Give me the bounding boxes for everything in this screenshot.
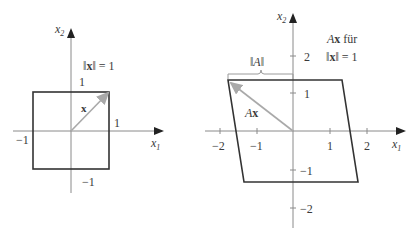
left-tick-top: 1: [79, 75, 85, 89]
vector-x-arrow: [71, 93, 108, 131]
left-panel-unit-square: x2 x1 ‖x‖ = 1 1 1 −1 −1 x: [13, 22, 162, 193]
right-y-tick-label: −2: [300, 202, 313, 216]
left-norm-label: ‖x‖ = 1: [83, 59, 115, 73]
right-y-tick-label: 1: [304, 87, 310, 101]
right-y-axis-label: x2: [276, 9, 286, 25]
right-x-tick-label: 1: [327, 139, 333, 153]
right-y-tick-label: 2: [304, 50, 310, 64]
left-x-axis-label: x1: [150, 136, 160, 152]
left-tick-right: 1: [114, 116, 120, 130]
vector-Ax-arrow: [231, 83, 293, 131]
right-caption-line1: Ax für: [326, 32, 357, 46]
right-x-tick-label: −2: [212, 139, 225, 153]
left-y-axis-label: x2: [54, 22, 64, 38]
brace-norm-label: ‖A‖: [250, 55, 264, 69]
matrix-norm-figure: x2 x1 ‖x‖ = 1 1 1 −1 −1 x: [0, 0, 414, 238]
right-panel-image-parallelogram: x2 x1 Ax für ‖x‖ = 1 ‖A‖ Ax −2 −1 1 2 2 …: [205, 9, 404, 228]
right-x-axis-label: x1: [391, 137, 401, 153]
norm-brace: [228, 70, 293, 79]
left-tick-left: −1: [16, 133, 29, 147]
vector-Ax-label: Ax: [244, 106, 258, 120]
left-vector-label: x: [81, 102, 87, 114]
right-x-tick-label: 2: [364, 139, 370, 153]
right-y-tick-label: −1: [300, 164, 313, 178]
left-tick-bottom: −1: [82, 175, 95, 189]
right-caption-line2: ‖x‖ = 1: [326, 50, 358, 64]
right-x-tick-label: −1: [250, 139, 263, 153]
